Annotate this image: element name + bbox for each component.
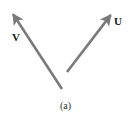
vector-v-label: V xyxy=(12,32,20,43)
vector-diagram-figure: V U (a) xyxy=(0,0,131,122)
vector-u-label: U xyxy=(114,16,122,27)
vector-v-arrow xyxy=(13,14,62,89)
vector-u-arrow xyxy=(67,15,111,72)
figure-caption: (a) xyxy=(0,100,131,112)
